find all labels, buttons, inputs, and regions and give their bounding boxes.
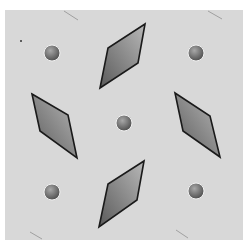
diagram-figure — [0, 0, 250, 251]
sphere-center — [116, 115, 132, 131]
speck-mark — [20, 40, 22, 42]
sphere-bottom-left — [44, 184, 60, 200]
sphere-top-right — [188, 45, 204, 61]
sphere-top-left — [44, 45, 60, 61]
diagram-canvas — [0, 0, 250, 251]
sphere-bottom-right — [188, 183, 204, 199]
